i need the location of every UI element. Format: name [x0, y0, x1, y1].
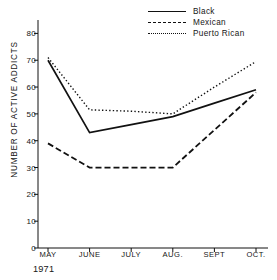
chart-legend: Black Mexican Puerto Rican — [148, 6, 245, 39]
legend-item-label: Black — [193, 7, 215, 16]
series-line — [48, 92, 256, 167]
legend-item-label: Puerto Rican — [193, 29, 245, 38]
x-tick-label: AUG. — [163, 250, 183, 259]
x-tick-label: JULY — [121, 250, 141, 259]
x-tick-label: JUNE — [79, 250, 101, 259]
legend-item: Puerto Rican — [148, 28, 245, 39]
legend-item: Black — [148, 6, 245, 17]
legend-item-label: Mexican — [193, 18, 226, 27]
legend-item: Mexican — [148, 17, 245, 28]
x-axis-title: 1971 — [33, 264, 54, 274]
series-line — [48, 58, 256, 114]
plot-area — [0, 0, 277, 280]
x-tick-label: MAY — [39, 250, 56, 259]
chart-container: NUMBER OF ACTIVE ADDICTS 010203040506070… — [0, 0, 277, 280]
x-tick-label: SEPT — [204, 250, 226, 259]
axis-lines — [38, 20, 268, 248]
x-tick-label: OCT. — [246, 250, 265, 259]
